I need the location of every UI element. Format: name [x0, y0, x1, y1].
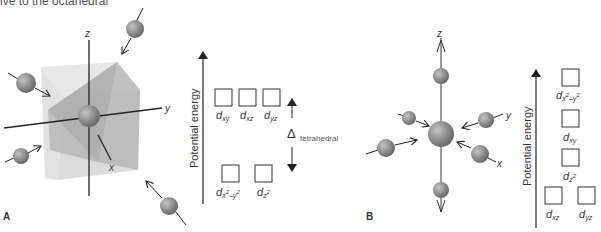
delta-symbol: Δ — [287, 126, 296, 141]
z-axis-label: z — [84, 28, 90, 39]
potential-energy-label-b: Potential energy — [521, 106, 533, 186]
orbital-label-dxz-b: dxz — [546, 208, 560, 221]
y-axis-label-b: y — [505, 110, 512, 121]
orbital-box-dz2-b — [562, 149, 579, 166]
orbital-box-dz2 — [255, 165, 272, 182]
orbital-label-dxz: dxz — [240, 109, 254, 122]
y-axis-label: y — [164, 103, 171, 114]
orbital-label-dyz: dyz — [264, 109, 278, 123]
potential-energy-label-a: Potential energy — [188, 88, 200, 168]
orbital-box-dyz-b — [578, 187, 595, 204]
orbital-label-dx2y2: dx2–y2 — [216, 186, 240, 200]
z-axis-label-b: z — [436, 28, 442, 39]
orbital-box-dx2y2-b — [562, 69, 579, 86]
orbital-label-dxy-b: dxy — [563, 131, 577, 145]
tetrahedral-model — [4, 8, 186, 225]
orbital-box-dxy-b — [562, 110, 579, 127]
panel-a-label: A — [3, 211, 10, 222]
x-axis-label-b: x — [496, 158, 503, 169]
orbital-box-dxy — [215, 89, 232, 106]
x-axis-label: x — [108, 162, 115, 173]
orbital-box-dxz-b — [545, 187, 562, 204]
delta-tetrahedral-label: tetrahedral — [300, 134, 338, 143]
orbital-label-dxy: dxy — [216, 109, 230, 123]
orbital-label-dyz-b: dyz — [579, 208, 593, 222]
orbital-label-dz2-b: dz2 — [563, 170, 577, 183]
panel-b-label: B — [366, 211, 373, 222]
orbital-box-dxz — [239, 89, 256, 106]
orbital-box-dx2y2 — [222, 165, 239, 182]
orbital-box-dyz — [263, 89, 280, 106]
orbital-label-dx2y2-b: dx2–y2 — [556, 89, 580, 103]
orbital-label-dz2: dz2 — [257, 186, 271, 199]
octahedral-model — [366, 38, 503, 212]
